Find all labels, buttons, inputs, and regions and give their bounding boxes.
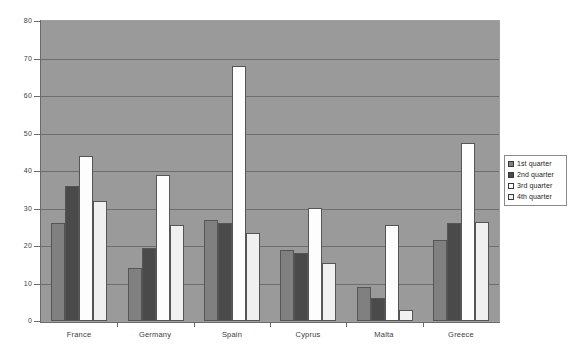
gridline: [41, 209, 499, 210]
gridline: [41, 246, 499, 247]
legend-item-label: 1st quarter: [517, 160, 552, 168]
bar: [371, 298, 385, 321]
bar: [142, 248, 156, 321]
y-axis-tick-label: 30: [2, 205, 32, 213]
x-axis-category-label: Spain: [194, 330, 270, 340]
bar: [156, 175, 170, 321]
legend-swatch-icon: [508, 194, 514, 200]
gridline: [41, 171, 499, 172]
x-axis-tick: [346, 322, 347, 327]
x-axis-category-label: France: [41, 330, 117, 340]
bar: [232, 66, 246, 321]
legend-swatch-icon: [508, 172, 514, 178]
y-axis-tick-label-wrap: 70: [0, 55, 32, 63]
x-axis-tick: [270, 322, 271, 327]
x-axis-tick: [194, 322, 195, 327]
y-axis-tick-label: 60: [2, 92, 32, 100]
y-axis-tick-label: 0: [2, 317, 32, 325]
y-axis-tick-label: 10: [2, 280, 32, 288]
y-axis-tick-label: 80: [2, 17, 32, 25]
legend-item[interactable]: 3rd quarter: [508, 181, 563, 191]
bar: [280, 250, 294, 321]
gridline: [41, 134, 499, 135]
bar: [79, 156, 93, 321]
bar: [308, 208, 322, 321]
bar: [218, 223, 232, 321]
x-axis-tick: [117, 322, 118, 327]
y-axis-tick: [34, 96, 40, 97]
bar: [322, 263, 336, 321]
bar: [433, 240, 447, 321]
y-axis-tick-label-wrap: 50: [0, 130, 32, 138]
bar: [447, 223, 461, 321]
legend-swatch-icon: [508, 161, 514, 167]
bar: [385, 225, 399, 321]
plot-area: [40, 20, 500, 322]
y-axis-tick: [34, 59, 40, 60]
y-axis-tick-label-wrap: 40: [0, 167, 32, 175]
bar: [461, 143, 475, 321]
y-axis-tick-label-wrap: 60: [0, 92, 32, 100]
y-axis-tick: [34, 209, 40, 210]
y-axis-tick: [34, 171, 40, 172]
bar: [399, 310, 413, 321]
gridline: [41, 96, 499, 97]
bar: [204, 220, 218, 321]
bar: [51, 223, 65, 321]
bar: [128, 268, 142, 321]
legend-item-label: 4th quarter: [517, 193, 552, 201]
bar: [246, 233, 260, 321]
y-axis-tick-label: 40: [2, 167, 32, 175]
legend-item-label: 2nd quarter: [517, 171, 554, 179]
bar: [65, 186, 79, 321]
x-axis-category-label: Germany: [117, 330, 193, 340]
y-axis-tick: [34, 134, 40, 135]
gridline: [41, 59, 499, 60]
legend-swatch-icon: [508, 183, 514, 189]
bar: [93, 201, 107, 321]
y-axis-tick: [34, 21, 40, 22]
x-axis-category-label: Greece: [423, 330, 499, 340]
y-axis-tick-label-wrap: 80: [0, 17, 32, 25]
bar: [357, 287, 371, 321]
y-axis-tick-label: 70: [2, 55, 32, 63]
legend-item[interactable]: 1st quarter: [508, 159, 563, 169]
x-axis-tick: [423, 322, 424, 327]
y-axis-tick-label-wrap: 0: [0, 317, 32, 325]
legend: 1st quarter2nd quarter3rd quarter4th qua…: [504, 155, 567, 206]
legend-item[interactable]: 4th quarter: [508, 192, 563, 202]
legend-item-label: 3rd quarter: [517, 182, 552, 190]
y-axis-tick-label: 50: [2, 130, 32, 138]
bar: [170, 225, 184, 321]
y-axis-tick-label: 20: [2, 242, 32, 250]
legend-item[interactable]: 2nd quarter: [508, 170, 563, 180]
gridline: [41, 284, 499, 285]
y-axis-line: [40, 20, 41, 322]
y-axis-tick: [34, 246, 40, 247]
bar: [475, 222, 489, 321]
y-axis-tick-label-wrap: 30: [0, 205, 32, 213]
x-axis-category-label: Malta: [346, 330, 422, 340]
y-axis-tick-label-wrap: 20: [0, 242, 32, 250]
bar-chart: 01020304050607080 FranceGermanySpainCypr…: [0, 0, 577, 352]
y-axis-tick-label-wrap: 10: [0, 280, 32, 288]
y-axis-tick: [34, 284, 40, 285]
bar: [294, 253, 308, 321]
x-axis-category-label: Cyprus: [270, 330, 346, 340]
